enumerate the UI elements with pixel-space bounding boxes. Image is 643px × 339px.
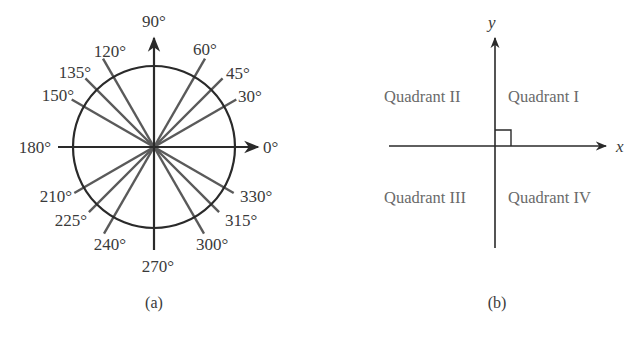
- angle-label-330: 330°: [240, 187, 272, 206]
- angle-label-315: 315°: [225, 211, 257, 230]
- angle-label-135: 135°: [59, 63, 91, 82]
- angle-label-300: 300°: [196, 235, 228, 254]
- quadrant-iv-label: Quadrant IV: [508, 188, 591, 207]
- angle-label-240: 240°: [94, 235, 126, 254]
- angle-label-150: 150°: [42, 86, 74, 105]
- angle-label-45: 45°: [226, 64, 250, 83]
- quadrant-i-label: Quadrant I: [508, 87, 579, 106]
- figure-b-quadrants: x y Quadrant II Quadrant I Quadrant III …: [384, 13, 624, 312]
- angle-label-30: 30°: [238, 87, 262, 106]
- caption-b: (b): [488, 294, 507, 312]
- angle-label-180: 180°: [19, 138, 51, 157]
- caption-a: (a): [145, 294, 163, 312]
- x-axis-label: x: [615, 137, 624, 156]
- angle-label-60: 60°: [193, 40, 217, 59]
- angle-label-270: 270°: [142, 257, 174, 276]
- quadrant-ii-label: Quadrant II: [384, 87, 461, 106]
- angle-label-225: 225°: [55, 211, 87, 230]
- angle-label-210: 210°: [40, 187, 72, 206]
- figure-a-unit-circle: 0°30°45°60°90°120°135°150°180°210°225°24…: [19, 12, 279, 312]
- angle-label-120: 120°: [94, 42, 126, 61]
- quadrant-iii-label: Quadrant III: [384, 188, 466, 207]
- figure-canvas: 0°30°45°60°90°120°135°150°180°210°225°24…: [0, 0, 643, 339]
- angle-label-90: 90°: [142, 12, 166, 31]
- right-angle-marker: [495, 130, 511, 146]
- y-axis-label: y: [486, 13, 496, 32]
- angle-label-0: 0°: [263, 138, 278, 157]
